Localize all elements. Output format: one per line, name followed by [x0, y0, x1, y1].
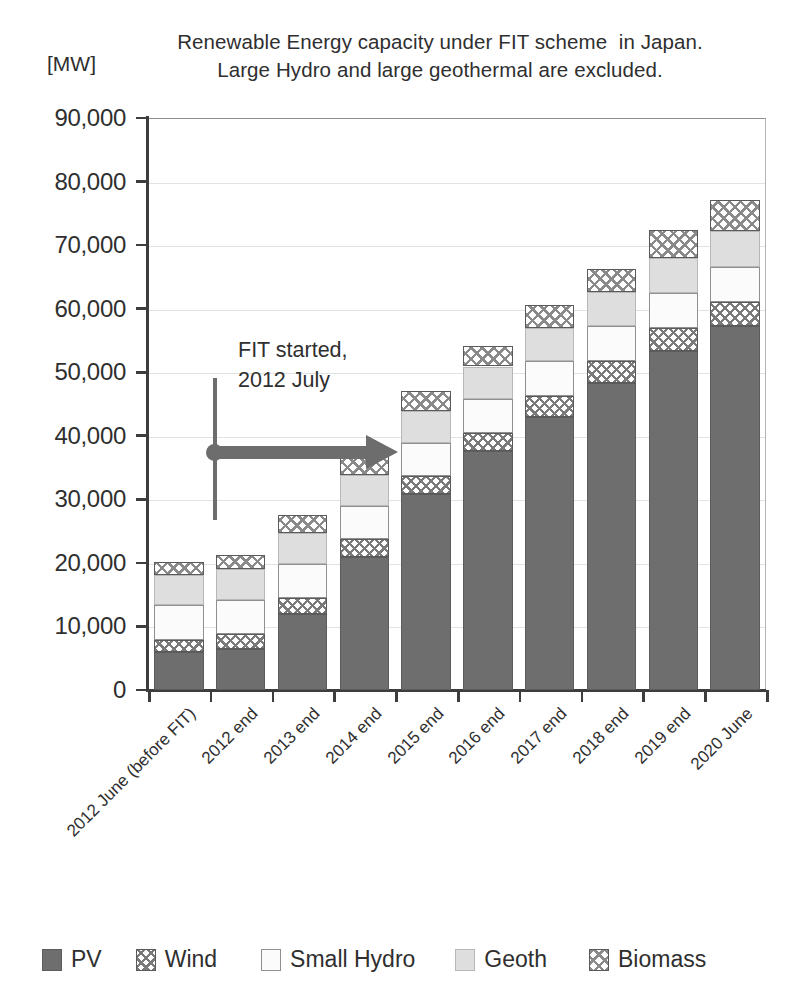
bar-segment-biomass [710, 200, 759, 231]
y-axis-tick [136, 689, 148, 692]
legend-swatch-geoth-icon [455, 949, 475, 971]
y-axis-tick-label: 20,000 [8, 549, 126, 577]
bar-segment-pv [216, 649, 265, 690]
chart-title-line-1: Renewable Energy capacity under FIT sche… [130, 28, 750, 56]
bar-segment-pv [340, 557, 389, 690]
bar-segment-small-hydro [649, 293, 698, 328]
x-axis-tick-label: 2020 June [686, 704, 756, 774]
chart-title: Renewable Energy capacity under FIT sche… [130, 28, 750, 83]
annotation-text: FIT started, 2012 July [238, 336, 348, 395]
bar-segment-biomass [401, 391, 450, 411]
legend-item-biomass[interactable]: Biomass [589, 946, 706, 973]
legend-label-geoth: Geoth [484, 946, 547, 973]
legend-swatch-biomass-icon [589, 949, 609, 971]
bar-segment-geoth [710, 231, 759, 267]
bar-stack [278, 118, 327, 690]
bar-segment-pv [401, 494, 450, 690]
y-axis-tick-label: 60,000 [8, 295, 126, 323]
y-axis-tick-label: 30,000 [8, 485, 126, 513]
annotation-arrow-head-icon [366, 435, 398, 469]
bar-segment-pv [649, 351, 698, 690]
bar-segment-small-hydro [525, 361, 574, 395]
x-axis-tick [704, 690, 707, 702]
x-axis-tick [272, 690, 275, 702]
bar-segment-geoth [278, 533, 327, 564]
y-axis-tick [136, 180, 148, 183]
bar-segment-wind [340, 539, 389, 556]
bar-segment-biomass [649, 230, 698, 257]
bar-stack [463, 118, 512, 690]
bar-stack [401, 118, 450, 690]
chart-title-line-2: Large Hydro and large geothermal are exc… [130, 56, 750, 84]
bar-segment-wind [710, 302, 759, 327]
chart-legend: PVWindSmall HydroGeothBiomass [42, 946, 772, 973]
y-axis-tick [136, 244, 148, 247]
bar-segment-pv [278, 614, 327, 690]
annotation-arrow-shaft [218, 446, 368, 459]
legend-item-wind[interactable]: Wind [136, 946, 217, 973]
bar-segment-biomass [587, 269, 636, 293]
bar-segment-geoth [649, 258, 698, 293]
bar-segment-biomass [278, 515, 327, 533]
x-axis-tick-label: 2012 end [198, 704, 262, 768]
legend-item-hydro[interactable]: Small Hydro [261, 946, 415, 973]
y-axis-tick [136, 307, 148, 310]
annotation-text-line-2: 2012 July [238, 366, 348, 396]
x-axis-tick [210, 690, 213, 702]
bar-segment-wind [154, 640, 203, 652]
bar-stack [154, 118, 203, 690]
legend-label-biomass: Biomass [618, 946, 706, 973]
legend-swatch-wind-icon [136, 949, 156, 971]
x-axis-tick-label: 2013 end [260, 704, 324, 768]
y-axis-tick-label: 0 [8, 676, 126, 704]
x-axis-tick [581, 690, 584, 702]
bar-stack [649, 118, 698, 690]
bar-segment-pv [463, 451, 512, 690]
legend-label-pv: PV [71, 946, 102, 973]
bar-segment-wind [525, 396, 574, 417]
bar-segment-small-hydro [154, 605, 203, 640]
y-axis-tick-label: 50,000 [8, 358, 126, 386]
x-axis-tick [642, 690, 645, 702]
bar-segment-biomass [216, 555, 265, 569]
bar-stack [340, 118, 389, 690]
annotation-text-line-1: FIT started, [238, 336, 348, 366]
bar-segment-small-hydro [340, 506, 389, 539]
bar-segment-geoth [463, 367, 512, 399]
x-axis-tick-label: 2015 end [383, 704, 447, 768]
legend-item-geoth[interactable]: Geoth [455, 946, 547, 973]
y-axis-tick [136, 434, 148, 437]
bar-segment-biomass [463, 346, 512, 366]
bar-stack [710, 118, 759, 690]
x-axis-tick-label: 2014 end [322, 704, 386, 768]
bar-segment-biomass [525, 305, 574, 327]
x-axis-tick-label: 2016 end [445, 704, 509, 768]
bar-stack [587, 118, 636, 690]
x-axis-tick-label: 2019 end [631, 704, 695, 768]
x-axis-tick [766, 690, 769, 702]
legend-label-wind: Wind [165, 946, 217, 973]
chart-container: [MW] Renewable Energy capacity under FIT… [0, 0, 800, 1007]
bar-segment-pv [587, 383, 636, 690]
y-axis-tick [136, 625, 148, 628]
bar-segment-small-hydro [710, 267, 759, 302]
y-axis-tick-label: 80,000 [8, 168, 126, 196]
bar-segment-geoth [154, 575, 203, 605]
legend-label-hydro: Small Hydro [290, 946, 415, 973]
y-axis-line [146, 116, 149, 692]
legend-item-pv[interactable]: PV [42, 946, 102, 973]
x-axis-tick [457, 690, 460, 702]
x-axis-tick-label: 2012 June (before FIT) [63, 704, 200, 841]
x-axis-tick [519, 690, 522, 702]
bar-segment-pv [710, 326, 759, 690]
bar-segment-small-hydro [463, 399, 512, 433]
bar-stack [216, 118, 265, 690]
bar-segment-geoth [525, 328, 574, 362]
bar-segment-wind [649, 328, 698, 352]
bar-segment-geoth [401, 411, 450, 443]
x-axis-tick [333, 690, 336, 702]
bar-segment-wind [463, 433, 512, 451]
y-axis-tick [136, 371, 148, 374]
bar-segment-geoth [587, 292, 636, 326]
bar-segment-wind [587, 361, 636, 383]
